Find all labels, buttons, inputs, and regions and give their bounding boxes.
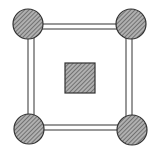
node-top-right xyxy=(116,9,146,39)
node-top-left xyxy=(13,9,43,39)
diagram-canvas xyxy=(0,0,166,156)
node-bottom-left xyxy=(14,114,44,144)
left-bar xyxy=(28,24,34,129)
center-square xyxy=(65,63,95,93)
node-bottom-right xyxy=(117,115,147,145)
right-bar xyxy=(126,24,132,130)
